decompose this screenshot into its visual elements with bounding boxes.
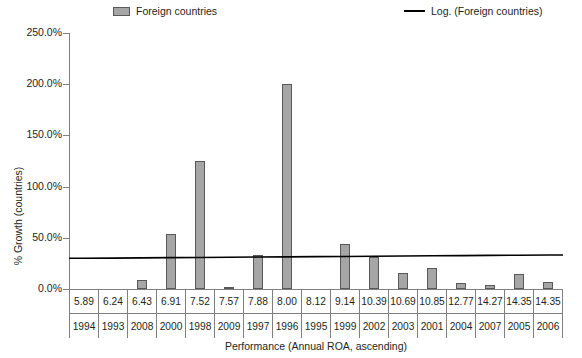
table-cell-year: 2000	[157, 314, 186, 339]
x-axis-title: Performance (Annual ROA, ascending)	[69, 340, 563, 352]
table-cell-roa: 9.14	[331, 289, 360, 314]
table-cell-roa: 14.35	[534, 289, 563, 314]
legend-label-series: Foreign countries	[136, 6, 217, 17]
table-cell-roa: 8.00	[273, 289, 302, 314]
table-cell-year: 1996	[273, 314, 302, 339]
table-cell-roa: 14.35	[505, 289, 534, 314]
y-axis-title: % Growth (countries)	[12, 116, 24, 316]
table-cell-year: 1999	[331, 314, 360, 339]
table-cell-roa: 14.27	[476, 289, 505, 314]
y-axis-tick-mark	[63, 135, 69, 136]
table-cell-year: 1995	[302, 314, 331, 339]
table-cell-roa: 10.39	[360, 289, 389, 314]
table-cell-year: 2008	[128, 314, 157, 339]
legend-item-log-trend: Log. (Foreign countries)	[404, 0, 542, 22]
table-cell-roa: 10.69	[389, 289, 418, 314]
table-cell-roa: 7.57	[215, 289, 244, 314]
table-cell-year: 2007	[476, 314, 505, 339]
table-cell-year: 1993	[99, 314, 128, 339]
y-axis-tick-mark	[63, 33, 69, 34]
table-cell-year: 1997	[244, 314, 273, 339]
table-row-roa: 5.896.246.436.917.527.577.888.008.129.14…	[70, 289, 563, 314]
table-cell-year: 2003	[389, 314, 418, 339]
table-cell-roa: 6.43	[128, 289, 157, 314]
legend-label-trend: Log. (Foreign countries)	[431, 6, 542, 17]
table-cell-roa: 10.85	[418, 289, 447, 314]
legend-item-foreign-countries: Foreign countries	[113, 0, 217, 22]
trend-line-path	[69, 255, 563, 258]
y-axis-tick-mark	[63, 84, 69, 85]
table-cell-year: 2006	[534, 314, 563, 339]
table-cell-year: 2009	[215, 314, 244, 339]
table-cell-year: 1994	[70, 314, 99, 339]
table-cell-roa: 8.12	[302, 289, 331, 314]
trend-line-log-foreign-countries	[69, 33, 563, 289]
table-cell-year: 2005	[505, 314, 534, 339]
data-table: 5.896.246.436.917.527.577.888.008.129.14…	[69, 289, 563, 337]
table-cell-roa: 12.77	[447, 289, 476, 314]
y-axis-tick-mark	[63, 187, 69, 188]
chart-container: Foreign countries Log. (Foreign countrie…	[0, 0, 582, 358]
table-cell-year: 2004	[447, 314, 476, 339]
legend-line-swatch-icon	[404, 10, 425, 12]
table-cell-roa: 6.91	[157, 289, 186, 314]
table-cell-roa: 7.88	[244, 289, 273, 314]
y-axis-tick-mark	[63, 238, 69, 239]
table-cell-year: 1998	[186, 314, 215, 339]
legend-bar-swatch-icon	[113, 7, 130, 16]
table-cell-roa: 6.24	[99, 289, 128, 314]
table-cell-roa: 5.89	[70, 289, 99, 314]
chart-legend: Foreign countries Log. (Foreign countrie…	[0, 0, 582, 22]
table-cell-year: 2002	[360, 314, 389, 339]
table-row-year: 1994199320082000199820091997199619951999…	[70, 314, 563, 339]
table-cell-roa: 7.52	[186, 289, 215, 314]
table-cell-year: 2001	[418, 314, 447, 339]
y-axis-title-holder: % Growth (countries)	[10, 60, 30, 260]
y-axis-tick-mark	[63, 289, 69, 290]
y-axis-tick-label: 250.0%	[4, 27, 62, 38]
